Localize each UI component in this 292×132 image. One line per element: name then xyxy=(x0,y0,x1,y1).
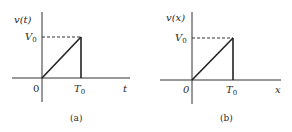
t0-tick-label: T0 xyxy=(226,84,237,97)
figure-a: v(t) V0 0 T0 t (a) xyxy=(12,12,130,123)
x-axis-label: t xyxy=(123,83,128,94)
x-axis-label: x xyxy=(275,84,281,95)
caption-a: (a) xyxy=(70,113,82,123)
ramp-line xyxy=(42,37,81,78)
ramp-diagram: v(t) V0 0 T0 t (a) v(x) V0 0 T0 x (b) xyxy=(0,0,292,132)
origin-label: 0 xyxy=(183,84,190,95)
t0-tick-label: T0 xyxy=(74,83,85,96)
v0-label: V0 xyxy=(175,32,187,45)
caption-b: (b) xyxy=(220,113,233,123)
y-axis-label: v(t) xyxy=(14,14,32,25)
v0-label: V0 xyxy=(25,31,37,44)
origin-label: 0 xyxy=(33,83,39,94)
ramp-line xyxy=(192,38,233,80)
figure-b: v(x) V0 0 T0 x (b) xyxy=(160,12,281,123)
y-axis-label: v(x) xyxy=(166,12,185,23)
